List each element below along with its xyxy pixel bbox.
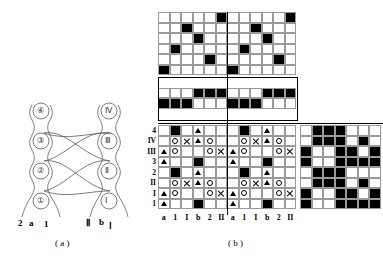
matrix-cell <box>193 12 205 23</box>
matrix-cell <box>181 157 193 168</box>
matrix-cell <box>239 199 251 210</box>
matrix-cell <box>346 146 358 157</box>
matrix-cell <box>158 33 170 44</box>
matrix-cell <box>181 33 193 44</box>
row-label-1: 1 <box>136 199 156 210</box>
column-label-6: a <box>227 213 239 222</box>
node-right-IV: Ⅳ <box>105 107 112 115</box>
matrix-cell <box>335 157 347 168</box>
cross-icon <box>286 147 296 156</box>
matrix-cell <box>300 157 312 168</box>
foot-right-I: Ⅰ <box>109 222 112 231</box>
matrix-cell <box>227 178 239 189</box>
node-left-2: ② <box>37 167 44 175</box>
column-label-7: 1 <box>239 213 251 222</box>
matrix-cell <box>158 146 170 157</box>
matrix-cell <box>227 44 239 55</box>
circle-icon <box>276 138 282 144</box>
matrix-cell <box>158 12 170 23</box>
matrix-cell <box>170 199 182 210</box>
matrix-cell <box>227 54 239 65</box>
matrix-cell <box>273 125 285 136</box>
triangle-icon <box>195 128 201 133</box>
matrix-cell <box>227 12 239 23</box>
matrix-cell <box>193 146 205 157</box>
matrix-cell <box>158 125 170 136</box>
row-label-column: 4IVIII32III1 <box>136 125 156 209</box>
matrix-cell <box>204 188 216 199</box>
matrix-cell <box>346 157 358 168</box>
matrix-cell <box>227 23 239 34</box>
matrix-cell <box>181 178 193 189</box>
matrix-cell <box>170 136 182 147</box>
cross-icon <box>251 137 261 146</box>
matrix-cell <box>250 146 262 157</box>
matrix-cell <box>216 157 228 168</box>
matrix-cell <box>262 23 274 34</box>
circle-icon <box>207 190 213 196</box>
matrix-cell <box>227 125 239 136</box>
matrix-cell <box>262 157 274 168</box>
matrix-cell <box>250 199 262 210</box>
matrix-cell <box>285 146 297 157</box>
matrix-cell <box>216 188 228 199</box>
matrix-cell <box>227 33 239 44</box>
matrix-cell <box>181 136 193 147</box>
matrix-cell <box>346 167 358 178</box>
matrix-cell <box>216 136 228 147</box>
matrix-cell <box>181 188 193 199</box>
matrix-cell <box>216 65 228 76</box>
matrix-cell <box>204 65 216 76</box>
matrix-cell <box>181 12 193 23</box>
matrix-cell <box>216 33 228 44</box>
panel-b-matrices: 4IVIII32III1 a1Ib2IIa1Ib2II <box>140 8 380 258</box>
matrix-cell <box>204 125 216 136</box>
matrix-cell <box>346 199 358 210</box>
matrix-cell <box>285 33 297 44</box>
matrix-cell <box>312 167 324 178</box>
triangle-icon <box>161 149 167 154</box>
matrix-cell <box>335 146 347 157</box>
triangle-icon <box>161 201 167 206</box>
matrix-cell <box>262 12 274 23</box>
matrix-cell <box>335 199 347 210</box>
matrix-cell <box>216 167 228 178</box>
matrix-cell <box>369 188 381 199</box>
panel-a-braid: ④ ③ ② ① Ⅳ Ⅲ Ⅱ Ⅰ 2 a 1 Ⅱ b Ⅰ <box>10 95 140 245</box>
circle-icon <box>207 148 213 154</box>
matrix-cell <box>312 157 324 168</box>
node-left-4: ④ <box>37 107 44 115</box>
matrix-cell <box>250 65 262 76</box>
matrix-cell <box>346 178 358 189</box>
matrix-cell <box>358 146 370 157</box>
row-label-3: 3 <box>136 157 156 168</box>
matrix-cell <box>227 188 239 199</box>
matrix-cell <box>193 65 205 76</box>
matrix-cell <box>158 44 170 55</box>
matrix-cell <box>346 125 358 136</box>
matrix-cell <box>285 199 297 210</box>
matrix-cell <box>250 54 262 65</box>
matrix-cell <box>273 65 285 76</box>
matrix-cell <box>158 54 170 65</box>
row-label-IV: IV <box>136 136 156 147</box>
row-label-I: I <box>136 188 156 199</box>
matrix-cell <box>300 178 312 189</box>
matrix-cell <box>285 44 297 55</box>
matrix-cell <box>300 167 312 178</box>
matrix-cell <box>239 136 251 147</box>
matrix-cell <box>181 199 193 210</box>
matrix-cell <box>204 146 216 157</box>
matrix-cell <box>262 167 274 178</box>
matrix-cell <box>312 125 324 136</box>
matrix-cell <box>181 54 193 65</box>
matrix-cell <box>262 33 274 44</box>
matrix-cell <box>170 12 182 23</box>
matrix-cell <box>323 146 335 157</box>
triangle-icon <box>161 191 167 196</box>
matrix-cell <box>216 199 228 210</box>
matrix-cell <box>227 167 239 178</box>
matrix-cell <box>193 199 205 210</box>
matrix-cell <box>204 33 216 44</box>
